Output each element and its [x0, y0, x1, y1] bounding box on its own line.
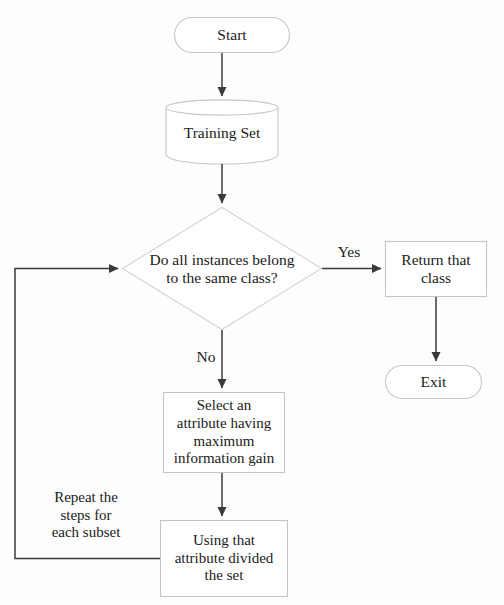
shape-training-set [166, 100, 278, 164]
shape-return-that-class [386, 242, 487, 297]
shape-divide-set [161, 521, 288, 597]
edge-label-yes: Yes [330, 243, 368, 261]
shape-select-attribute [164, 393, 285, 473]
shape-exit [386, 366, 482, 399]
flowchart-canvas: Start Training Set Do all instances belo… [0, 0, 504, 605]
shape-decision-diamond [123, 208, 322, 330]
shape-start [175, 18, 290, 53]
edge-label-no: No [192, 348, 220, 366]
edge-label-repeat-steps: Repeat the steps for each subset [33, 489, 139, 542]
